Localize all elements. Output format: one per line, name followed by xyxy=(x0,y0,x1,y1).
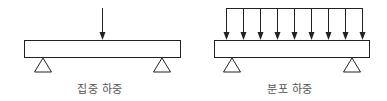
arrow-down-icon xyxy=(309,32,315,40)
arrow-down-icon xyxy=(100,32,106,40)
arrow-down-icon xyxy=(258,32,264,40)
concentrated-load-label: 집중 하중 xyxy=(50,80,150,96)
distributed-support-left-icon xyxy=(224,58,241,72)
arrow-down-icon xyxy=(275,32,281,40)
arrow-down-icon xyxy=(241,32,247,40)
arrow-down-icon xyxy=(224,32,230,40)
concentrated-beam xyxy=(25,41,181,58)
concentrated-support-left-icon xyxy=(35,58,52,72)
arrow-down-icon xyxy=(343,32,349,40)
distributed-support-right-icon xyxy=(344,58,361,72)
distributed-beam xyxy=(215,41,370,58)
arrow-down-icon xyxy=(360,32,366,40)
concentrated-support-right-icon xyxy=(154,58,171,72)
arrow-down-icon xyxy=(292,32,298,40)
arrow-down-icon xyxy=(326,32,332,40)
distributed-load-label: 분포 하중 xyxy=(240,80,340,96)
